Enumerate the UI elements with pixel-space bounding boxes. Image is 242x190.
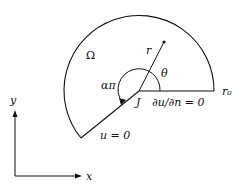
- neumann-condition-label: ∂u/∂n = 0: [152, 96, 204, 109]
- y-axis-arrow-icon: [13, 110, 18, 117]
- outer-radius-label: r₀: [222, 85, 232, 98]
- radius-label: r: [146, 44, 152, 57]
- corner-label: J: [134, 96, 141, 109]
- y-axis-label: y: [9, 94, 17, 107]
- x-axis-label: x: [86, 170, 93, 183]
- dirichlet-condition-label: u = 0: [100, 129, 130, 142]
- x-axis-arrow-icon: [75, 174, 82, 179]
- reentrant-angle-label: απ: [101, 79, 116, 92]
- domain-diagram: Ω r θ απ J ∂u/∂n = 0 r₀ u = 0 y x: [0, 0, 242, 190]
- domain-label: Ω: [86, 49, 95, 62]
- radius-endpoint-dot: [162, 40, 165, 43]
- outer-arc: [64, 15, 214, 138]
- angle-theta-label: θ: [161, 67, 168, 80]
